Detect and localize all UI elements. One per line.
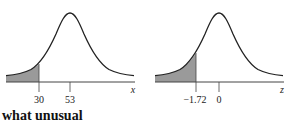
shaded-tail-right: [155, 53, 196, 82]
mean-label-right: 0: [217, 94, 222, 105]
caption-fragment: what unusual: [2, 108, 83, 120]
cutoff-label-left: 30: [34, 94, 44, 105]
bell-curve-right: [155, 13, 283, 76]
figure-right: −1.72 0 z: [155, 13, 284, 105]
bell-curve-left: [6, 13, 134, 76]
mean-label-left: 53: [65, 94, 75, 105]
cutoff-label-right: −1.72: [183, 94, 206, 105]
axis-variable-z: z: [279, 84, 284, 95]
figure-left: 30 53 x: [6, 13, 136, 105]
normal-distribution-figures: 30 53 x −1.72 0 z: [0, 0, 299, 120]
axis-variable-x: x: [130, 84, 136, 95]
